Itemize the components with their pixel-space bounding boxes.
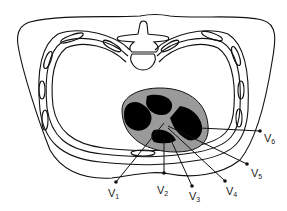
label-v4: V4 — [226, 185, 237, 198]
label-v2: V2 — [157, 184, 168, 197]
label-v3: V3 — [189, 190, 200, 203]
heart — [122, 88, 208, 152]
label-v5: V5 — [251, 167, 262, 180]
label-v1: V1 — [108, 187, 119, 200]
chest-cross-section-diagram: V1 V2 V3 V4 V5 V6 — [0, 0, 287, 211]
label-v6: V6 — [264, 132, 275, 145]
